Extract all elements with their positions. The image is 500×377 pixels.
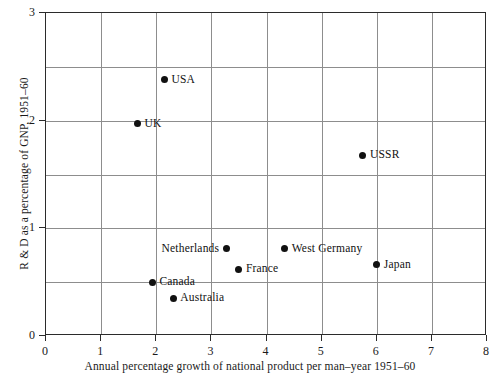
x-axis-tick-label: 5 (318, 345, 324, 357)
y-axis-tick (39, 12, 45, 13)
gridline-horizontal (46, 67, 485, 68)
x-axis-tick (266, 335, 267, 341)
gridline-horizontal (46, 228, 485, 229)
x-axis-tick-label: 0 (42, 345, 48, 357)
gridline-horizontal (46, 121, 485, 122)
gridline-horizontal (46, 282, 485, 283)
x-axis-tick-label: 6 (373, 345, 379, 357)
gridline-vertical (432, 13, 433, 334)
x-axis-tick (155, 335, 156, 341)
gridline-vertical (156, 13, 157, 334)
x-axis-tick-label: 2 (152, 345, 158, 357)
y-axis-label: R & D as a percentage of GNP, 1951–60 (16, 12, 32, 335)
scatter-chart-figure: USAUKUSSRNetherlandsWest GermanyFranceJa… (0, 0, 500, 377)
gridline-horizontal (46, 175, 485, 176)
gridline-vertical (322, 13, 323, 334)
x-axis-tick (100, 335, 101, 341)
data-point-label: Canada (159, 276, 195, 288)
x-axis-tick-label: 1 (97, 345, 103, 357)
y-axis-tick (39, 335, 45, 336)
x-axis-tick (376, 335, 377, 341)
chart-title (45, 0, 486, 10)
x-axis-tick-label: 7 (428, 345, 434, 357)
data-point[interactable] (170, 295, 177, 302)
data-point-label: USA (172, 74, 196, 86)
data-point[interactable] (359, 152, 366, 159)
x-axis-tick-label: 4 (263, 345, 269, 357)
data-point-label: West Germany (292, 243, 363, 255)
data-point[interactable] (223, 245, 230, 252)
y-axis-tick (39, 227, 45, 228)
data-point[interactable] (281, 245, 288, 252)
x-axis-tick (486, 335, 487, 341)
data-point-label: USSR (370, 149, 400, 161)
data-point-label: Japan (384, 259, 411, 271)
x-axis-tick-label: 8 (483, 345, 489, 357)
data-point[interactable] (149, 279, 156, 286)
x-axis-label: Annual percentage growth of national pro… (0, 360, 500, 372)
x-axis-tick (45, 335, 46, 341)
x-axis-tick-label: 3 (207, 345, 213, 357)
gridline-vertical (101, 13, 102, 334)
x-axis-tick (321, 335, 322, 341)
x-axis-tick (210, 335, 211, 341)
gridline-vertical (377, 13, 378, 334)
data-point[interactable] (134, 120, 141, 127)
data-point[interactable] (373, 261, 380, 268)
x-axis-tick (431, 335, 432, 341)
plot-area: USAUKUSSRNetherlandsWest GermanyFranceJa… (45, 12, 486, 335)
gridline-vertical (211, 13, 212, 334)
data-point-label: UK (145, 118, 162, 130)
gridline-vertical (267, 13, 268, 334)
y-axis-tick (39, 120, 45, 121)
data-point-label: France (246, 263, 279, 275)
data-point-label: Australia (180, 293, 224, 305)
data-point[interactable] (161, 76, 168, 83)
data-point-label: Netherlands (161, 243, 219, 255)
data-point[interactable] (235, 266, 242, 273)
